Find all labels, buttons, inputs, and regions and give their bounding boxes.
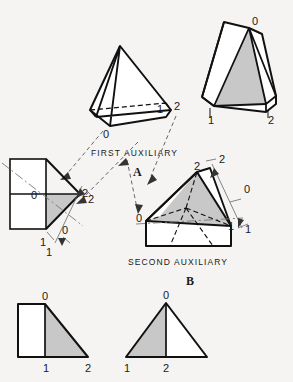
fv-dim-label-2: 2 [88,193,94,205]
sa-label-0: 0 [136,212,142,224]
fv-dim-label-1: 1 [46,246,52,258]
bl-label-1: 1 [43,362,49,374]
fv-label-0: 0 [31,189,37,201]
sa-dim-label-1: 1 [245,223,251,235]
caption-second-auxiliary: SECOND AUXILIARY [128,257,228,267]
br-label-0: 0 [163,289,169,301]
bl-label-2: 2 [85,362,91,374]
br-label-2: 2 [163,362,169,374]
sa-label-1: 1 [228,220,234,232]
br-label-1: 1 [124,362,130,374]
fa-label-1: 1 [157,103,163,115]
fa-label-0: 0 [103,128,109,140]
sa-dim-label-0: 0 [244,183,250,195]
auxiliary-views-figure: 0 1 2 0 1 2 FIRST AUXILIARY A SECOND AUX… [0,0,293,382]
bl-label-0: 0 [42,290,48,302]
pictorial-tr-label-0: 0 [252,15,258,27]
caption-first-auxiliary: FIRST AUXILIARY [91,148,178,158]
fa-label-2: 2 [174,100,180,112]
sa-label-2: 2 [194,160,200,172]
sa-dim-label-2: 2 [219,153,225,165]
key-label-b: B [186,274,194,288]
key-label-a: A [133,165,142,179]
pictorial-tr-label-2: 2 [268,114,274,126]
bl-rect-fill [18,304,45,357]
pictorial-tr-label-1: 1 [208,114,214,126]
fv-dim-label-0: 0 [62,224,68,236]
